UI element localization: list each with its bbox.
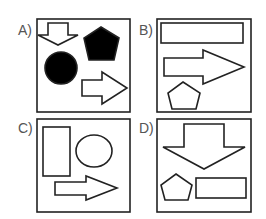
- option-d-panel[interactable]: [157, 119, 251, 212]
- option-b-panel[interactable]: [157, 19, 251, 112]
- circle-icon: [76, 135, 112, 167]
- pentagon-icon: [161, 174, 192, 200]
- wide-rectangle-icon: [161, 23, 243, 43]
- option-c-panel[interactable]: [37, 119, 130, 212]
- tall-rectangle-icon: [43, 127, 70, 176]
- right-arrow-icon: [55, 176, 117, 200]
- option-a-panel[interactable]: [37, 19, 130, 112]
- panel-c-frame: [37, 119, 130, 212]
- pentagon-icon: [168, 82, 200, 109]
- right-arrow-icon: [82, 72, 127, 104]
- pentagon-icon: [84, 27, 119, 60]
- down-arrow-icon: [38, 23, 78, 45]
- right-arrow-icon: [164, 50, 244, 84]
- down-arrow-icon: [163, 124, 245, 169]
- circle-icon: [45, 52, 77, 84]
- figure-canvas: [0, 0, 266, 219]
- rectangle-icon: [196, 178, 246, 198]
